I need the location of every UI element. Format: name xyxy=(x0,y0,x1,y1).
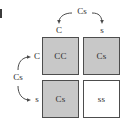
punnett-square-diagram: Cs Cs C s C s CC Cs Cs ss xyxy=(0,0,127,125)
column-header-c: C xyxy=(54,26,64,35)
top-left-arrowhead xyxy=(57,20,61,24)
left-top-arrowhead xyxy=(27,55,31,59)
left-bottom-gamete-arc xyxy=(18,86,28,100)
top-left-gamete-arc xyxy=(59,13,72,21)
left-bottom-arrowhead xyxy=(27,98,31,102)
punnett-cell-cc: CC xyxy=(42,37,79,75)
top-parent-genotype: Cs xyxy=(74,7,90,16)
row-header-s: s xyxy=(32,95,42,104)
row-header-c: C xyxy=(32,52,42,61)
punnett-cell-ss: ss xyxy=(83,80,120,118)
left-parent-genotype: Cs xyxy=(10,73,26,82)
left-top-gamete-arc xyxy=(18,57,28,70)
column-header-s: s xyxy=(97,26,107,35)
punnett-cell-cs-top-right: Cs xyxy=(83,37,120,75)
top-right-gamete-arc xyxy=(92,13,102,21)
top-right-arrowhead xyxy=(100,20,104,24)
punnett-cell-cs-bottom-left: Cs xyxy=(42,80,79,118)
